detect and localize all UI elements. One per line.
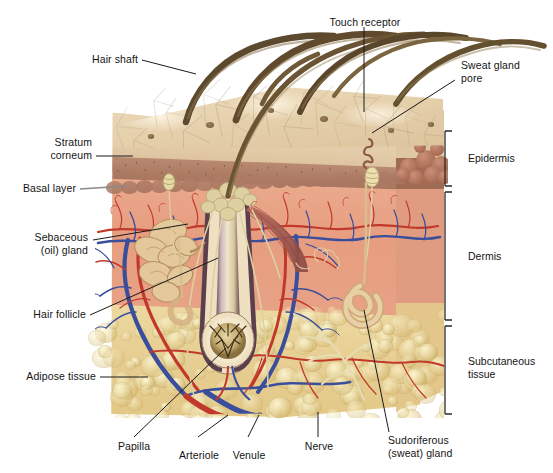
label-touch-receptor: Touch receptor [304, 16, 426, 29]
label-nerve: Nerve [290, 440, 348, 453]
adipose-lobules [88, 300, 444, 418]
label-papilla: Papilla [99, 440, 169, 453]
label-venule: Venule [220, 449, 278, 462]
bracket-label-epidermis: Epidermis [468, 152, 515, 165]
basal-layer-papillae [88, 168, 420, 194]
label-stratum-corneum: Stratum corneum [2, 136, 92, 161]
figure-canvas: Hair shaft Touch receptor Sweat gland po… [0, 0, 553, 473]
label-sweat-gland-pore: Sweat gland pore [461, 59, 551, 84]
bracket-label-dermis: Dermis [468, 250, 501, 263]
bracket-label-subcutaneous: Subcutaneous tissue [468, 355, 535, 380]
skin-surface [88, 78, 443, 148]
label-hair-shaft: Hair shaft [16, 53, 138, 66]
label-adipose-tissue: Adipose tissue [2, 370, 96, 383]
label-basal-layer: Basal layer [2, 182, 76, 195]
label-sebaceous-gland: Sebaceous (oil) gland [2, 231, 88, 256]
label-hair-follicle: Hair follicle [2, 308, 86, 321]
label-sudoriferous-gland: Sudoriferous (sweat) gland [388, 434, 506, 459]
